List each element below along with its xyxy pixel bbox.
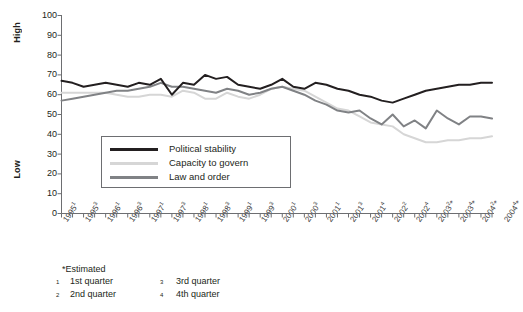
legend-item-law-and-order: Law and order (110, 170, 282, 184)
footnote-quarter-legend: 1 1st quarter 3 3rd quarter 2 2nd quarte… (56, 275, 220, 301)
legend-item-capacity-to-govern: Capacity to govern (110, 156, 282, 170)
legend-swatch-law-and-order (110, 176, 158, 179)
footnote-sup-3: 3 (160, 276, 174, 288)
legend-label-law-and-order: Law and order (169, 172, 230, 182)
legend-swatch-political-stability (110, 148, 158, 151)
footnote-estimated: *Estimated (62, 263, 220, 275)
footnote-text-1: 1st quarter (70, 275, 158, 287)
legend-label-political-stability: Political stability (169, 144, 236, 154)
footnote-text-4: 4th quarter (176, 288, 220, 300)
x-tick-2004-q4: 20044* (500, 197, 523, 223)
legend-swatch-capacity-to-govern (110, 162, 158, 165)
footnote-sup-2: 2 (56, 289, 68, 301)
footnote-sup-1: 1 (56, 276, 68, 288)
footnote-text-3: 3rd quarter (176, 275, 220, 287)
legend-label-capacity-to-govern: Capacity to govern (169, 158, 248, 168)
footnote-sup-4: 4 (160, 289, 174, 301)
footnote-text-2: 2nd quarter (70, 288, 158, 300)
legend-item-political-stability: Political stability (110, 142, 282, 156)
chart-legend: Political stability Capacity to govern L… (101, 136, 291, 188)
footnotes: *Estimated 1 1st quarter 3 3rd quarter 2… (56, 263, 220, 301)
series-line-capacity-to-govern (62, 87, 493, 142)
